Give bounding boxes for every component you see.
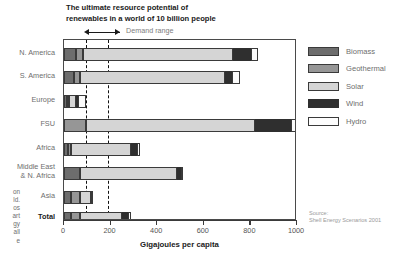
x-axis-tick xyxy=(110,220,111,225)
y-axis-label-africa: Africa xyxy=(36,144,55,153)
source-line1: Source: xyxy=(309,210,381,217)
x-axis-tick xyxy=(203,220,204,225)
stacked-bar[interactable] xyxy=(64,119,295,132)
stacked-bar[interactable] xyxy=(64,48,258,61)
y-axis-label-line: FSU xyxy=(40,120,55,129)
y-axis-label-line: N. America xyxy=(19,49,55,58)
bar-segment-hydro xyxy=(78,95,86,108)
y-axis-label-total: Total xyxy=(38,213,55,222)
x-axis-title: Gigajoules per capita xyxy=(63,240,296,249)
bar-segment-biomass xyxy=(64,71,74,84)
legend-label: Hydro xyxy=(346,117,366,126)
chart-title-line2: renewables in a world of 10 billion peop… xyxy=(66,14,276,25)
legend-item-biomass[interactable]: Biomass xyxy=(308,46,386,56)
demand-range-label: Demand range xyxy=(126,26,174,35)
legend-swatch-geothermal xyxy=(308,64,339,73)
legend: BiomassGeothermalSolarWindHydro xyxy=(308,46,386,134)
y-axis-label-s-america: S. America xyxy=(20,72,55,81)
bleed-text-line: gy xyxy=(0,220,20,228)
chart-title-line1: The ultimate resource potential of xyxy=(66,3,276,14)
x-axis-tick-label: 600 xyxy=(197,226,209,235)
bar-segment-biomass xyxy=(64,191,71,204)
x-axis-line: 02004006008001000 xyxy=(63,220,296,221)
stacked-bar[interactable] xyxy=(64,95,86,108)
y-axis-label-europe: Europe xyxy=(31,96,55,105)
legend-label: Geothermal xyxy=(346,64,386,73)
y-axis-label-line: Total xyxy=(38,213,55,222)
y-axis-label-line: Asia xyxy=(41,192,55,201)
legend-swatch-solar xyxy=(308,82,339,91)
demand-range-annotation: Demand range xyxy=(84,26,244,38)
y-axis-label-line: Africa xyxy=(36,144,55,153)
source-line2: Shell Energy Scenarios 2001 xyxy=(309,217,381,224)
legend-item-wind[interactable]: Wind xyxy=(308,99,386,109)
x-axis-tick xyxy=(296,220,297,225)
bar-segment-wind xyxy=(255,119,291,132)
x-axis-tick-label: 200 xyxy=(104,226,116,235)
bar-segment-geothermal xyxy=(64,119,86,132)
x-axis-tick-label: 800 xyxy=(243,226,255,235)
y-axis-label-line: & N. Africa xyxy=(17,172,55,181)
stacked-bar[interactable] xyxy=(64,212,131,219)
legend-swatch-hydro xyxy=(308,117,339,126)
chart-figure: onld.osartgyalle The ultimate resource p… xyxy=(0,0,399,265)
bar-segment-hydro xyxy=(137,143,140,156)
legend-swatch-wind xyxy=(308,99,339,108)
legend-label: Wind xyxy=(346,99,363,108)
bar-segment-solar xyxy=(86,119,255,132)
legend-swatch-biomass xyxy=(308,47,339,56)
bar-segment-solar xyxy=(80,191,91,204)
source-note: Source: Shell Energy Scenarios 2001 xyxy=(309,210,381,224)
stacked-bar[interactable] xyxy=(64,143,140,156)
arrow-right-icon xyxy=(115,29,120,35)
legend-label: Solar xyxy=(346,82,364,91)
bar-segment-solar xyxy=(80,167,177,180)
x-axis-tick xyxy=(63,220,64,225)
legend-item-solar[interactable]: Solar xyxy=(308,81,386,91)
y-axis-labels: N. AmericaS. AmericaEuropeFSUAfricaMiddl… xyxy=(0,39,59,220)
bar-segment-biomass xyxy=(64,167,80,180)
bar-segment-hydro xyxy=(251,48,258,61)
legend-label: Biomass xyxy=(346,47,375,56)
bar-segment-hydro xyxy=(291,119,295,132)
bar-segment-geothermal xyxy=(71,191,80,204)
bar-segment-biomass xyxy=(64,48,76,61)
bar-segment-biomass xyxy=(64,212,71,219)
bar-segment-hydro xyxy=(181,167,183,180)
bar-segment-geothermal xyxy=(76,48,83,61)
bar-segment-hydro xyxy=(128,212,131,219)
bleed-text-line: all xyxy=(0,228,20,236)
y-axis-label-asia: Asia xyxy=(41,192,55,201)
plot-area xyxy=(63,39,296,220)
chart-title: The ultimate resource potential of renew… xyxy=(66,3,276,24)
bar-segment-geothermal xyxy=(71,212,80,219)
bleed-text-line: e xyxy=(0,237,20,245)
bar-segment-solar xyxy=(83,48,234,61)
bar-segment-wind xyxy=(233,48,251,61)
legend-item-hydro[interactable]: Hydro xyxy=(308,116,386,126)
stacked-bar[interactable] xyxy=(64,71,240,84)
y-axis-label-fsu: FSU xyxy=(40,120,55,129)
y-axis-label-line: Europe xyxy=(31,96,55,105)
x-axis-tick-label: 1000 xyxy=(288,226,304,235)
bar-segment-solar xyxy=(71,143,130,156)
x-axis-tick-label: 400 xyxy=(150,226,162,235)
x-axis-tick xyxy=(156,220,157,225)
bar-segment-solar xyxy=(80,71,225,84)
x-axis-tick xyxy=(249,220,250,225)
y-axis-label-middle-east: Middle East& N. Africa xyxy=(17,163,55,180)
stacked-bar[interactable] xyxy=(64,191,93,204)
bar-segment-hydro xyxy=(232,71,240,84)
bar-segment-solar xyxy=(69,95,76,108)
stacked-bar[interactable] xyxy=(64,167,183,180)
bar-segment-solar xyxy=(80,212,121,219)
bar-segment-hydro xyxy=(91,191,93,204)
legend-item-geothermal[interactable]: Geothermal xyxy=(308,64,386,74)
x-axis-tick-label: 0 xyxy=(61,226,65,235)
y-axis-label-line: S. America xyxy=(20,72,55,81)
y-axis-label-n-america: N. America xyxy=(19,49,55,58)
